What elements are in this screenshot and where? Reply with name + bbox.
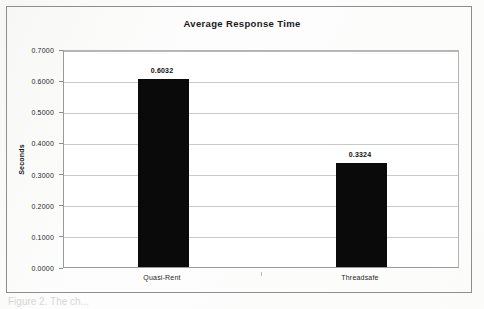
y-axis-tick-labels: 0.00000.10000.20000.30000.40000.50000.60… [0, 50, 58, 268]
x-axis-tick-label: Threadsafe [341, 274, 378, 281]
y-axis-tick-label: 0.1000 [31, 233, 54, 240]
bar[interactable] [336, 163, 387, 267]
gridline [64, 113, 458, 114]
bar-value-label: 0.6032 [117, 67, 208, 74]
gridline [64, 144, 458, 145]
bar-value-label: 0.3324 [315, 151, 406, 158]
y-axis-tick-label: 0.0000 [31, 265, 54, 272]
y-axis-tick-label: 0.3000 [31, 171, 54, 178]
y-axis-tick-label: 0.6000 [31, 78, 54, 85]
y-axis-tick-label: 0.2000 [31, 202, 54, 209]
x-axis-tick-label: Quasi-Rent [143, 274, 180, 281]
figure-caption-strip: Figure 2. The ch... [8, 295, 476, 309]
y-axis-tick-label: 0.7000 [31, 47, 54, 54]
plot-area [63, 50, 459, 268]
gridline [64, 175, 458, 176]
gridline [64, 237, 458, 238]
chart-title: Average Response Time [0, 18, 484, 29]
gridline [64, 206, 458, 207]
figure-caption-text: Figure 2. The ch... [8, 296, 89, 307]
x-axis-tick-labels: Quasi-RentThreadsafe [63, 272, 459, 288]
x-axis-tick-mark [261, 272, 262, 276]
y-axis-tick-label: 0.5000 [31, 109, 54, 116]
gridline [64, 51, 458, 52]
bar[interactable] [138, 79, 189, 267]
y-axis-tick-label: 0.4000 [31, 140, 54, 147]
gridline [64, 82, 458, 83]
screenshot-page: Average Response Time Seconds 0.00000.10… [0, 0, 484, 309]
